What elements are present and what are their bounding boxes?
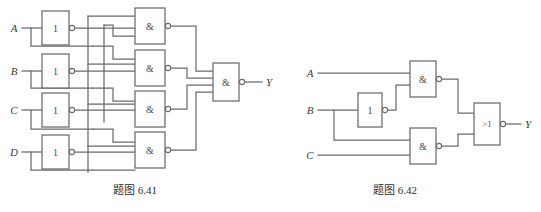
nand-2-bubble-icon	[165, 65, 170, 70]
gate-nand-1-label: &	[146, 21, 154, 32]
figure-page: A B C D 1 1 1 1	[0, 0, 541, 212]
fig2-gate-nor-output-label: >1	[482, 119, 492, 129]
wire-nand3-out	[171, 85, 213, 109]
gate-inverter-b-label: 1	[53, 66, 58, 77]
input-label-d: D	[9, 146, 18, 158]
wire-nand1-out	[171, 26, 213, 71]
wire-nand4-out	[171, 92, 213, 150]
fig2-gate-inverter-b-label: 1	[368, 105, 373, 116]
wire-nand2-out	[171, 68, 213, 78]
inverter-b-bubble-icon	[69, 68, 74, 73]
input-label-b: B	[11, 65, 18, 77]
fig2-nand-bottom-bubble-icon	[436, 143, 441, 148]
fig2-output-label-y: Y	[525, 118, 533, 130]
figure-6-41-caption: 题图 6.41	[113, 181, 157, 197]
input-label-c: C	[10, 104, 18, 116]
fig2-wire-notb	[388, 85, 410, 110]
figure-6-41-canvas: A B C D 1 1 1 1	[0, 0, 541, 212]
gate-inverter-d-label: 1	[53, 147, 58, 158]
nand-3-bubble-icon	[165, 106, 170, 111]
wire-nand3-in3	[93, 129, 135, 142]
wire-nand2-in3	[93, 88, 135, 101]
fig2-gate-nand-top-label: &	[419, 74, 427, 85]
gate-nand-output-label: &	[222, 77, 230, 88]
fig2-nor-output-bubble-icon	[500, 121, 505, 126]
output-label-y: Y	[266, 76, 274, 88]
wire-nand1-in3	[93, 46, 135, 59]
nand-output-bubble-icon	[239, 79, 244, 84]
wire-bus2-top	[104, 25, 135, 36]
gate-nand-4-label: &	[146, 145, 154, 156]
fig2-wire-nand-bottom-out	[442, 134, 474, 146]
fig2-wire-nand-top-out	[442, 79, 474, 113]
nand-4-bubble-icon	[165, 147, 170, 152]
fig2-input-label-a: A	[306, 67, 314, 79]
gate-nand-3-label: &	[146, 104, 154, 115]
fig2-nand-top-bubble-icon	[436, 76, 441, 81]
inverter-d-bubble-icon	[69, 149, 74, 154]
fig2-input-label-c: C	[306, 149, 314, 161]
gate-inverter-c-label: 1	[53, 105, 58, 116]
inverter-c-bubble-icon	[69, 107, 74, 112]
fig2-input-label-b: B	[307, 104, 314, 116]
figure-6-42-caption: 题图 6.42	[373, 181, 417, 197]
input-label-a: A	[10, 22, 18, 34]
inverter-a-bubble-icon	[69, 25, 74, 30]
fig2-gate-nand-bottom-label: &	[419, 141, 427, 152]
gate-inverter-a-label: 1	[53, 23, 58, 34]
nand-1-bubble-icon	[165, 23, 170, 28]
fig2-inverter-b-bubble-icon	[382, 107, 387, 112]
gate-nand-2-label: &	[146, 63, 154, 74]
